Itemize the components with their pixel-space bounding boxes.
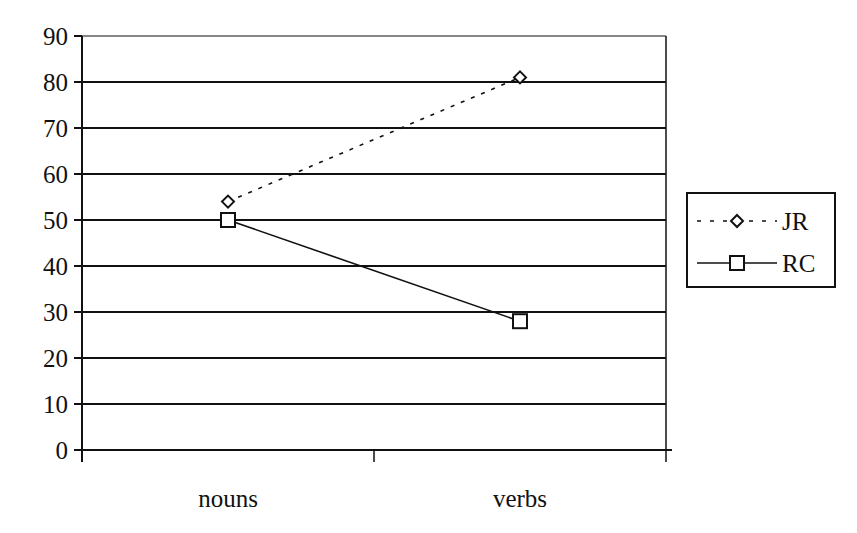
y-axis: 0102030405060708090 xyxy=(43,23,82,464)
data-point-jr-diamond-icon xyxy=(222,196,234,208)
legend-label-rc: RC xyxy=(782,250,815,277)
y-tick-label: 0 xyxy=(56,437,69,464)
legend-square-icon xyxy=(730,256,744,270)
series-line-rc xyxy=(228,220,520,321)
legend: JRRC xyxy=(687,193,835,287)
y-tick-label: 20 xyxy=(43,345,68,372)
legend-label-jr: JR xyxy=(782,208,809,235)
y-tick-label: 50 xyxy=(43,207,68,234)
y-tick-label: 70 xyxy=(43,115,68,142)
y-tick-label: 90 xyxy=(43,23,68,50)
series-line-jr xyxy=(228,77,520,201)
y-tick-label: 40 xyxy=(43,253,68,280)
x-category-label: verbs xyxy=(493,485,547,512)
data-point-rc-square-icon xyxy=(221,213,235,227)
series-lines xyxy=(221,71,527,328)
data-point-rc-square-icon xyxy=(513,314,527,328)
y-tick-label: 10 xyxy=(43,391,68,418)
y-tick-label: 80 xyxy=(43,69,68,96)
line-chart: 0102030405060708090 nounsverbs JRRC xyxy=(0,0,857,533)
gridlines xyxy=(82,36,666,450)
x-axis: nounsverbs xyxy=(82,450,672,512)
y-tick-label: 60 xyxy=(43,161,68,188)
x-category-label: nouns xyxy=(198,485,258,512)
y-tick-label: 30 xyxy=(43,299,68,326)
